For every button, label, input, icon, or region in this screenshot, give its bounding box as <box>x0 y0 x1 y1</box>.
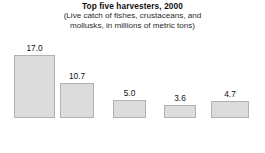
bar-group-japan[interactable]: 5.0 <box>113 77 146 118</box>
bar-value-china: 17.0 <box>26 44 42 53</box>
bar-rect-peru[interactable] <box>60 83 94 118</box>
bar-rect-united-states[interactable] <box>211 101 249 118</box>
chart-title: Top five harvesters, 2000 <box>0 1 265 11</box>
bar-group-united-states[interactable]: 4.7 <box>211 78 249 118</box>
bar-value-united-states: 4.7 <box>224 90 236 99</box>
bar-rect-japan[interactable] <box>113 100 146 118</box>
chart-header: Top five harvesters, 2000 (Live catch of… <box>0 1 265 31</box>
chart-figure: Top five harvesters, 2000 (Live catch of… <box>0 0 265 153</box>
chart-subtitle-line-1: (Live catch of fishes, crustaceans, and <box>0 11 265 21</box>
bar-group-india[interactable]: 3.6 <box>164 82 196 118</box>
bar-rect-india[interactable] <box>164 105 196 118</box>
bar-value-japan: 5.0 <box>124 89 136 98</box>
bar-group-peru[interactable]: 10.7 <box>60 60 94 118</box>
bar-rect-china[interactable] <box>14 55 55 118</box>
bar-value-peru: 10.7 <box>69 72 85 81</box>
plot-area: 17.0 China 10.7 Peru 5.0 Japan 3.6 India <box>0 32 265 153</box>
bar-group-china[interactable]: 17.0 <box>14 32 55 118</box>
bar-value-india: 3.6 <box>174 94 186 103</box>
chart-subtitle-line-2: mollusks, in millions of metric tons) <box>0 21 265 31</box>
